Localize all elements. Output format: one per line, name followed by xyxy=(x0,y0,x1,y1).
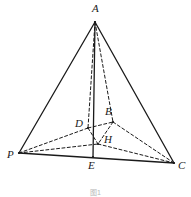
vertex-dot-c xyxy=(173,162,175,164)
vertex-dot-b xyxy=(112,121,114,123)
vertex-label-h: H xyxy=(104,134,112,145)
vertex-label-d: D xyxy=(75,118,83,129)
figure-caption: 图1 xyxy=(0,189,191,196)
vertex-label-c: C xyxy=(178,160,185,171)
edge-B-C xyxy=(113,122,174,163)
dashed-edges-group xyxy=(19,22,174,163)
geometry-diagram xyxy=(0,0,191,197)
vertex-dot-a xyxy=(94,21,96,23)
vertex-label-p: P xyxy=(7,149,14,160)
vertex-label-b: B xyxy=(105,106,112,117)
edge-P-A xyxy=(19,22,95,153)
vertex-dot-d xyxy=(87,127,89,129)
vertex-dot-h xyxy=(97,143,99,145)
vertex-dots-group xyxy=(18,21,175,164)
vertex-dot-e xyxy=(92,156,94,158)
vertex-label-a: A xyxy=(92,3,99,14)
vertex-dot-p xyxy=(18,152,20,154)
edge-P-C xyxy=(19,153,174,163)
vertex-label-e: E xyxy=(88,160,95,171)
geometry-figure: A P C E D B H 图1 xyxy=(0,0,191,197)
